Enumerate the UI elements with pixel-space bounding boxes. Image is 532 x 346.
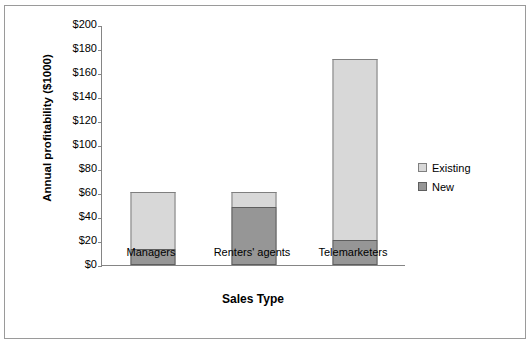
y-tick-label: $100 [73, 138, 97, 150]
legend-label-new: New [432, 181, 454, 193]
x-tick-label-telemarketers: Telemarketers [288, 246, 418, 258]
bar-segment-existing[interactable] [231, 192, 276, 208]
y-tick-label: $140 [73, 90, 97, 102]
y-tick-mark [98, 266, 102, 267]
bar-segment-existing[interactable] [333, 59, 378, 240]
y-tick-label: $200 [73, 18, 97, 30]
legend-item-existing[interactable]: Existing [418, 158, 471, 177]
y-tick-label: $180 [73, 42, 97, 54]
y-tick-label: $40 [79, 210, 97, 222]
legend-label-existing: Existing [432, 162, 471, 174]
stacked-bar[interactable] [333, 59, 378, 265]
bar-group-managers [102, 26, 203, 265]
y-tick-label: $80 [79, 162, 97, 174]
bar-segment-existing[interactable] [130, 192, 175, 250]
legend-item-new[interactable]: New [418, 177, 471, 196]
bar-group-telemarketers [305, 26, 406, 265]
legend-swatch-icon [418, 163, 427, 172]
legend-swatch-icon [418, 182, 427, 191]
chart-container: Annual profitability ($1000) $200 $180 $… [0, 0, 532, 346]
plot-area: $200 $180 $160 $140 $120 $100 $80 $60 [101, 26, 405, 266]
bar-group-renters-agents [203, 26, 304, 265]
y-tick-label: $20 [79, 234, 97, 246]
y-axis-title: Annual profitability ($1000) [41, 3, 53, 253]
x-axis-title: Sales Type [101, 292, 405, 306]
bar-series [102, 26, 405, 265]
y-tick-label: $0 [85, 258, 97, 270]
legend: Existing New [418, 158, 471, 196]
y-tick-label: $120 [73, 114, 97, 126]
y-tick-label: $160 [73, 66, 97, 78]
y-tick-label: $60 [79, 186, 97, 198]
